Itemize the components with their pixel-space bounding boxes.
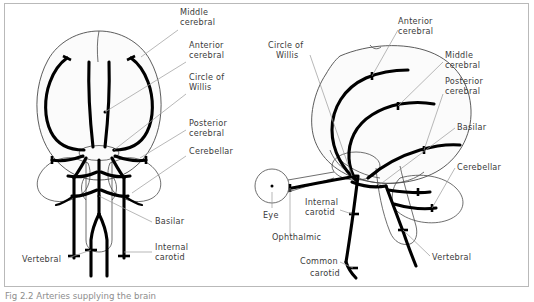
label-left-internal-carotid-line2: carotid [155,252,185,262]
anatomy-diagram: Middle cerebral Anterior cerebral Circle… [0,0,534,302]
label-left-anterior-cerebral-line1: Anterior [189,40,224,50]
label-left-vertebral: Vertebral [22,254,61,264]
figure-container: Middle cerebral Anterior cerebral Circle… [0,0,534,302]
label-right-vertebral-line1: Vertebral [432,252,471,262]
label-right-vertebral: Vertebral [432,252,471,262]
label-right-common-carotid-line2: carotid [310,268,340,278]
label-left-middle-cerebral: Middle cerebral [180,7,215,27]
left-diagram-group: Middle cerebral Anterior cerebral Circle… [22,7,234,276]
label-left-internal-carotid-line1: Internal [155,242,188,252]
label-right-eye: Eye [263,210,279,220]
label-left-middle-cerebral-line1: Middle [180,7,208,17]
label-right-basilar-line1: Basilar [457,122,487,132]
leader-right-cerebellar [432,168,455,208]
label-left-basilar-line1: Basilar [155,216,185,226]
label-right-ophthalmic: Ophthalmic [272,232,321,242]
left-carotid-branch [56,196,74,205]
label-left-posterior-cerebral-line2: cerebral [189,128,224,138]
right-inferior-cerebellar-vessel-lateral [394,204,436,209]
label-right-cerebellar-line1: Cerebellar [457,162,502,172]
label-left-middle-cerebral-line2: cerebral [180,17,215,27]
label-left-internal-carotid: Internal carotid [155,242,188,262]
eye-center-dot [271,185,274,188]
label-right-anterior-cerebral-line2: cerebral [398,26,433,36]
label-left-circle-of-willis-line1: Circle of [189,72,224,82]
label-right-internal-carotid-line2: carotid [305,207,335,217]
label-left-anterior-cerebral-line2: cerebral [189,50,224,60]
label-right-eye-line1: Eye [263,210,279,220]
label-left-vertebral-line1: Vertebral [22,254,61,264]
label-right-middle-cerebral-line1: Middle [445,50,473,60]
label-left-basilar: Basilar [155,216,185,226]
right-diagram-group: Anterior cerebral Circle of Willis Middl… [255,16,502,278]
label-right-posterior-cerebral: Posterior cerebral [445,76,483,96]
label-right-basilar: Basilar [457,122,487,132]
right-vertebral-vessel-lateral [386,186,416,266]
label-left-posterior-cerebral-line1: Posterior [189,118,227,128]
label-right-circle-of-willis: Circle of Willis [268,40,303,60]
figure-caption: Fig 2.2 Arteries supplying the brain [5,291,425,302]
left-vertebral-vessel [91,214,99,276]
label-right-common-carotid: Common carotid [300,256,340,278]
common-carotid-vessel [346,262,356,278]
label-right-internal-carotid: Internal carotid [305,197,338,217]
label-left-circle-of-willis-line2: Willis [189,82,212,92]
right-carotid-branch [124,196,142,205]
label-right-middle-cerebral-line2: cerebral [445,60,480,70]
label-right-anterior-cerebral-line1: Anterior [398,16,433,26]
label-left-circle-of-willis: Circle of Willis [189,72,224,92]
label-right-internal-carotid-line1: Internal [305,197,338,207]
label-left-anterior-cerebral: Anterior cerebral [189,40,224,60]
label-right-anterior-cerebral: Anterior cerebral [398,16,433,36]
label-right-middle-cerebral: Middle cerebral [445,50,480,70]
label-right-circle-of-willis-line2: Willis [276,50,299,60]
label-left-cerebellar: Cerebellar [189,146,234,156]
label-right-common-carotid-line1: Common [300,256,338,266]
label-right-posterior-cerebral-line1: Posterior [445,76,483,86]
right-vertebral-vessel [99,214,107,276]
label-left-posterior-cerebral: Posterior cerebral [189,118,227,138]
label-right-circle-of-willis-line1: Circle of [268,40,303,50]
leader-right-internal-carotid [340,210,352,214]
right-internal-carotid-vessel-lateral [346,176,358,262]
right-superior-cerebellar-vessel-lateral [388,190,430,193]
label-right-cerebellar: Cerebellar [457,162,502,172]
label-left-cerebellar-line1: Cerebellar [189,146,234,156]
label-right-ophthalmic-line1: Ophthalmic [272,232,321,242]
leader-left-middle-cerebral [141,30,178,57]
left-cerebrum-outline [37,31,161,180]
label-right-posterior-cerebral-line2: cerebral [445,86,480,96]
